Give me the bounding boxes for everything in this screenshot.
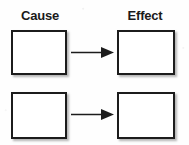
arrow-right-row-2 [71,108,115,121]
arrow-right-row-1 [71,46,115,59]
cause-effect-diagram: Cause Effect [0,0,189,145]
arrow-right-icon [71,46,115,59]
cause-box-row-2[interactable] [11,92,67,139]
column-heading-cause: Cause [0,9,80,23]
effect-box-row-2[interactable] [117,92,175,139]
cause-box-row-1[interactable] [11,30,67,75]
column-heading-effect: Effect [105,9,185,23]
effect-box-row-1[interactable] [117,30,175,75]
arrow-head [101,109,114,120]
arrow-right-icon [71,108,115,121]
arrow-head [101,47,114,58]
